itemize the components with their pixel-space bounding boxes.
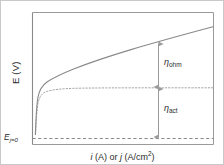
total-polarization-curve [35, 27, 213, 135]
x-axis-unit-amp: (A) [92, 152, 107, 162]
x-axis-unit-density: (A/cm [122, 152, 148, 162]
x-axis-label: i (A) or j (A/cm2) [32, 151, 213, 162]
eta-act-subscript: act [169, 107, 178, 114]
plot-frame [33, 13, 214, 145]
polarization-curve-figure: E (V) Ej=0 ηohm ηact i (A) or j (A/cm2) [0, 0, 224, 165]
eta-ohm-subscript: ohm [169, 61, 182, 68]
y-axis-label: E (V) [11, 47, 21, 99]
plot-canvas [1, 1, 224, 165]
equilibrium-potential-subscript: j=0 [10, 137, 18, 143]
equilibrium-potential-label: Ej=0 [4, 133, 18, 143]
eta-ohm-label: ηohm [164, 58, 182, 68]
activation-curve [36, 88, 214, 134]
eta-act-label: ηact [164, 104, 178, 114]
x-axis-unit-density-close: ) [152, 152, 155, 162]
x-axis-conjunction: or [107, 152, 120, 162]
